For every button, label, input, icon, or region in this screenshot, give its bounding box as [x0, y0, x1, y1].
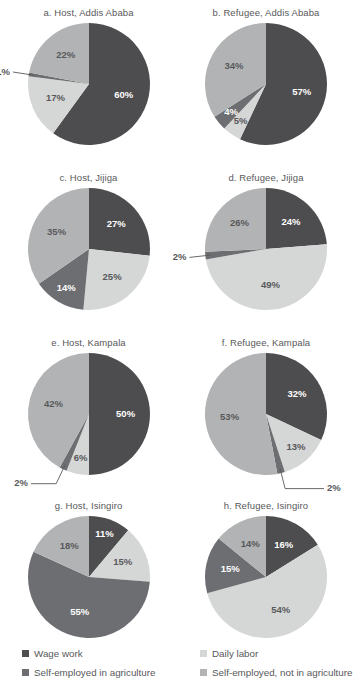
legend-row-2: Self-employed in agriculture Self-employ… — [22, 667, 355, 686]
pie-slice-label-h-wage-work: 16% — [274, 539, 294, 550]
pie-slice-label-g-daily-labor: 15% — [113, 556, 133, 567]
pie-slice-label-d-daily-labor: 49% — [261, 279, 281, 290]
legend-item-self-employed-agriculture: Self-employed in agriculture — [22, 667, 200, 678]
pie-slice-label-f-daily-labor: 13% — [286, 441, 306, 452]
pie-slice-label-g-wage-work: 11% — [95, 528, 114, 539]
pie-slice-label-f-wage-work: 32% — [287, 388, 307, 399]
pie-wrap-d: 24%49%2%26% — [202, 185, 330, 313]
pie-panel-g: g. Host, Isingiro11%15%55%18% — [0, 493, 177, 645]
pie-panel-title-c: c. Host, Jijiga — [60, 172, 118, 183]
chart-legend: Wage work Daily labor Self-employed in a… — [0, 648, 355, 694]
pie-svg-a: 60%17%1%22% — [25, 20, 153, 148]
legend-item-daily-labor: Daily labor — [200, 648, 258, 659]
pie-callout-line-f — [280, 468, 324, 488]
pie-panel-title-b: b. Refugee, Addis Ababa — [213, 7, 320, 18]
pie-slice-label-d-self-emp-nonag: 26% — [230, 217, 250, 228]
pie-svg-f: 32%13%2%53% — [202, 350, 330, 478]
pie-slice-label-f-self-emp-nonag: 53% — [220, 411, 240, 422]
pie-panel-b: b. Refugee, Addis Ababa57%5%4%34% — [177, 0, 355, 165]
pie-slice-label-c-self-emp-ag: 14% — [56, 282, 76, 293]
pie-svg-h: 16%54%15%14% — [202, 513, 330, 641]
pie-callout-label-d: 2% — [173, 251, 187, 262]
pie-slice-label-a-daily-labor: 17% — [45, 92, 65, 103]
legend-swatch-self-employed-non-agriculture — [200, 669, 207, 676]
pie-wrap-h: 16%54%15%14% — [202, 513, 330, 641]
pie-wrap-g: 11%15%55%18% — [25, 513, 153, 641]
pie-panel-f: f. Refugee, Kampala32%13%2%53% — [177, 330, 355, 493]
pie-wrap-e: 50%6%2%42% — [25, 350, 153, 478]
pie-slice-label-h-daily-labor: 54% — [271, 604, 291, 615]
pie-slice-label-b-wage-work: 57% — [292, 86, 312, 97]
pie-slice-label-c-wage-work: 27% — [106, 218, 126, 229]
pie-panel-e: e. Host, Kampala50%6%2%42% — [0, 330, 177, 493]
pie-slice-label-a-wage-work: 60% — [114, 89, 134, 100]
pie-panel-h: h. Refugee, Isingiro16%54%15%14% — [177, 493, 355, 645]
pie-wrap-f: 32%13%2%53% — [202, 350, 330, 478]
pie-slice-label-b-self-emp-nonag: 34% — [224, 60, 244, 71]
pie-slice-label-d-wage-work: 24% — [281, 216, 301, 227]
legend-label-daily-labor: Daily labor — [212, 648, 258, 659]
pie-chart-figure: a. Host, Addis Ababa60%17%1%22%b. Refuge… — [0, 0, 355, 700]
legend-item-wage-work: Wage work — [22, 648, 200, 659]
legend-swatch-daily-labor — [200, 650, 207, 657]
pie-panel-d: d. Refugee, Jijiga24%49%2%26% — [177, 165, 355, 330]
pie-svg-d: 24%49%2%26% — [202, 185, 330, 313]
pie-panel-title-e: e. Host, Kampala — [51, 337, 125, 348]
pie-svg-b: 57%5%4%34% — [202, 20, 330, 148]
pie-panel-title-d: d. Refugee, Jijiga — [228, 172, 303, 183]
pie-callout-label-f: 2% — [327, 482, 341, 493]
pie-slice-label-g-self-emp-nonag: 18% — [59, 540, 79, 551]
pie-slice-label-g-self-emp-ag: 55% — [70, 606, 90, 617]
pie-panel-title-a: a. Host, Addis Ababa — [43, 7, 133, 18]
pie-panel-c: c. Host, Jijiga27%25%14%35% — [0, 165, 177, 330]
pie-callout-label-e: 2% — [14, 477, 28, 488]
pie-slice-label-c-daily-labor: 25% — [102, 271, 122, 282]
legend-swatch-self-employed-agriculture — [22, 669, 29, 676]
legend-label-self-employed-non-agriculture: Self-employed, not in agriculture — [212, 667, 353, 678]
pie-panel-title-g: g. Host, Isingiro — [55, 500, 123, 511]
pie-slice-label-e-daily-labor: 6% — [73, 452, 87, 463]
pie-wrap-a: 60%17%1%22% — [25, 20, 153, 148]
legend-item-self-employed-non-agriculture: Self-employed, not in agriculture — [200, 667, 353, 678]
pie-slice-label-h-self-emp-nonag: 14% — [241, 538, 261, 549]
legend-label-self-employed-agriculture: Self-employed in agriculture — [34, 667, 155, 678]
pie-svg-e: 50%6%2%42% — [25, 350, 153, 478]
pie-wrap-b: 57%5%4%34% — [202, 20, 330, 148]
pie-svg-g: 11%15%55%18% — [25, 513, 153, 641]
legend-swatch-wage-work — [22, 650, 29, 657]
pie-slice-label-e-wage-work: 50% — [116, 408, 136, 419]
legend-label-wage-work: Wage work — [34, 648, 83, 659]
pie-panel-title-f: f. Refugee, Kampala — [222, 337, 311, 348]
pie-panel-grid: a. Host, Addis Ababa60%17%1%22%b. Refuge… — [0, 0, 355, 645]
pie-slice-label-e-self-emp-nonag: 42% — [43, 398, 63, 409]
pie-slice-label-a-self-emp-nonag: 22% — [56, 49, 76, 60]
pie-slice-label-h-self-emp-ag: 15% — [221, 563, 241, 574]
pie-callout-label-a: 1% — [0, 66, 10, 77]
pie-slice-label-c-self-emp-nonag: 35% — [47, 226, 67, 237]
legend-row-1: Wage work Daily labor — [22, 648, 355, 667]
pie-panel-title-h: h. Refugee, Isingiro — [224, 500, 308, 511]
pie-panel-a: a. Host, Addis Ababa60%17%1%22% — [0, 0, 177, 165]
pie-wrap-c: 27%25%14%35% — [25, 185, 153, 313]
pie-slice-label-b-self-emp-ag: 4% — [224, 106, 238, 117]
pie-svg-c: 27%25%14%35% — [25, 185, 153, 313]
